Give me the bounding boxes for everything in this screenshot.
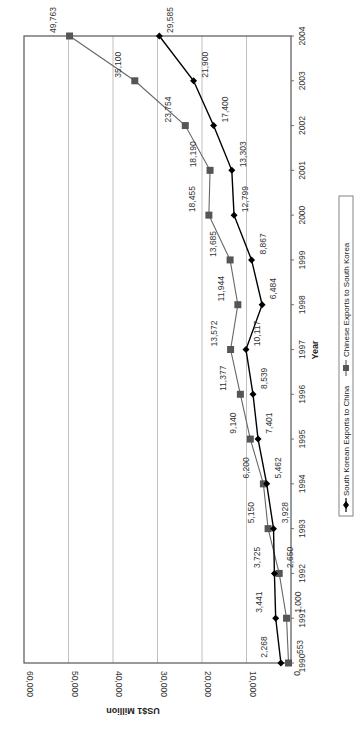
data-label: 11,377 [218, 365, 228, 391]
data-label: 10,117 [252, 321, 262, 347]
square-marker-icon [283, 615, 290, 622]
value-tick-label: 50,000 [70, 671, 80, 697]
value-tick-label: 20,000 [203, 671, 213, 697]
rotated-line-chart: 010,00020,00030,00040,00050,00060,000 19… [0, 0, 363, 749]
data-label: 23,754 [163, 96, 173, 122]
square-marker-icon [205, 212, 212, 219]
square-marker-icon [237, 391, 244, 398]
legend: South Korean Exports to China Chinese Ex… [339, 196, 353, 516]
year-tick-label: 2000 [297, 205, 307, 224]
year-tick-label: 2004 [297, 26, 307, 45]
data-label: 8,867 [258, 233, 268, 255]
year-tick-label: 1990 [297, 653, 307, 672]
south-korean-exports-line [159, 36, 281, 663]
value-axis-title: US$1 Million [106, 706, 160, 716]
diamond-marker-icon [250, 391, 257, 398]
data-label: 8,539 [259, 367, 269, 389]
data-label: 6,484 [268, 278, 278, 300]
year-tick-label: 1998 [297, 295, 307, 314]
year-tick-label: 1999 [297, 250, 307, 269]
legend-item-chinese-exports: Chinese Exports to South Korea [342, 242, 351, 376]
data-label: 3,928 [280, 502, 290, 524]
value-axis-ticks: 010,00020,00030,00040,00050,00060,000 [25, 671, 302, 697]
chart-canvas: 010,00020,00030,00040,00050,00060,000 19… [0, 0, 363, 749]
year-tick-label: 2003 [297, 71, 307, 90]
data-label: 2,650 [285, 547, 295, 569]
data-label: 3,441 [254, 591, 264, 613]
year-tick-label: 1995 [297, 429, 307, 448]
diamond-marker-icon [277, 660, 284, 667]
data-label: 12,799 [240, 186, 250, 212]
legend-label: South Korean Exports to China [342, 385, 351, 496]
data-label: 13,303 [238, 141, 248, 167]
square-marker-icon [285, 660, 292, 667]
year-tick-label: 1993 [297, 519, 307, 538]
data-label: 17,400 [220, 96, 230, 122]
value-tick-label: 40,000 [114, 671, 124, 697]
year-tick-label: 1994 [297, 474, 307, 493]
value-tick-label: 60,000 [25, 671, 35, 697]
data-label: 2,268 [259, 636, 269, 658]
square-marker-icon [66, 33, 73, 40]
data-label: 21,900 [200, 52, 210, 78]
data-label: 5,150 [246, 502, 256, 524]
diamond-marker-icon [242, 346, 249, 353]
square-marker-icon [343, 365, 349, 371]
square-marker-icon [247, 436, 254, 443]
data-label: 13,572 [209, 320, 219, 346]
year-axis-title: Year [310, 340, 320, 360]
diamond-marker-icon [259, 301, 266, 308]
year-tick-label: 2002 [297, 116, 307, 135]
data-label: 553 [295, 640, 305, 654]
year-tick-label: 1997 [297, 340, 307, 359]
data-label: 9,140 [228, 412, 238, 434]
square-marker-icon [227, 256, 234, 263]
legend-label: Chinese Exports to South Korea [342, 242, 351, 357]
year-tick-label: 1996 [297, 385, 307, 404]
data-label: 7,401 [264, 412, 274, 434]
square-marker-icon [131, 77, 138, 84]
value-tick-label: 30,000 [159, 671, 169, 697]
data-labels: 2,2683,4413,7253,9285,4627,4018,53910,11… [48, 7, 305, 658]
data-label: 1,000 [293, 591, 303, 613]
diamond-marker-icon [272, 615, 279, 622]
data-label: 29,585 [165, 7, 175, 33]
square-marker-icon [182, 122, 189, 129]
gridlines [69, 36, 247, 663]
legend-item-south-korean-exports: South Korean Exports to China [342, 385, 351, 512]
diamond-marker-icon [248, 256, 255, 263]
data-label: 18,455 [187, 186, 197, 212]
diamond-marker-icon [228, 167, 235, 174]
year-tick-label: 2001 [297, 161, 307, 180]
data-label: 3,725 [252, 547, 262, 569]
year-axis-ticks: 1990199119921993199419951996199719981999… [291, 26, 307, 672]
year-tick-label: 1992 [297, 564, 307, 583]
diamond-marker-icon [255, 436, 262, 443]
diamond-marker-icon [231, 212, 238, 219]
data-label: 5,462 [273, 457, 283, 479]
square-marker-icon [234, 301, 241, 308]
data-label: 13,685 [208, 231, 218, 257]
data-label: 49,763 [48, 7, 58, 33]
data-label: 35,100 [113, 52, 123, 78]
value-tick-label: 10,000 [248, 671, 258, 697]
data-label: 18,190 [188, 141, 198, 167]
diamond-marker-icon [210, 122, 217, 129]
square-marker-icon [227, 346, 234, 353]
square-marker-icon [207, 167, 214, 174]
series-lines [66, 33, 292, 667]
data-label: 6,200 [241, 457, 251, 479]
data-label: 11,944 [216, 276, 226, 302]
